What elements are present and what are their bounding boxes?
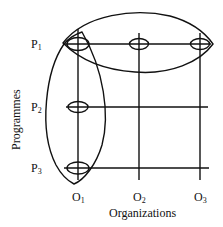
column-label-o1: O1 — [72, 191, 85, 205]
column-label-o2: O2 — [133, 191, 146, 205]
y-axis-title: Programmes — [9, 89, 24, 150]
column-label-o3: O3 — [194, 191, 207, 205]
column-o1-grouping-ellipse — [46, 32, 106, 184]
row-label-p1: P1 — [31, 38, 42, 52]
row-label-p2: P2 — [31, 101, 42, 115]
x-axis-title: Organizations — [109, 206, 176, 221]
row-label-p3: P3 — [31, 162, 42, 176]
